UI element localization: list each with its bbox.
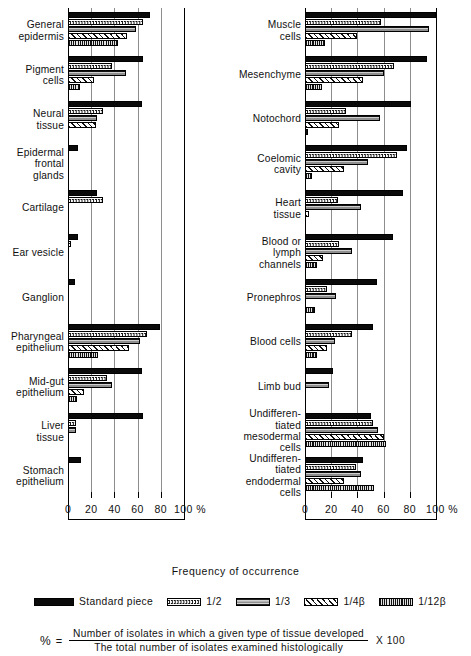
x-axis-title: Frequency of occurrence xyxy=(0,565,471,577)
bar-gray xyxy=(68,115,97,121)
bar-gray xyxy=(305,115,380,121)
chart-row: Mid-gut epithelium xyxy=(68,364,185,409)
category-label: Pronephros xyxy=(221,292,301,303)
bar-solid xyxy=(305,101,411,107)
chart-row: Pharyngeal epithelium xyxy=(68,320,185,365)
x-axis-tick-label: 40 xyxy=(108,503,120,515)
bar-gray xyxy=(305,159,368,165)
category-label: Epidermal frontal glands xyxy=(0,147,64,181)
chart-row: Pigment cells xyxy=(68,53,185,98)
chart-row: Blood cells xyxy=(305,320,437,365)
bar-dot xyxy=(305,63,394,69)
bar-dot xyxy=(305,286,327,292)
x-axis-tick-label: 20 xyxy=(325,503,337,515)
bar-solid xyxy=(305,56,427,62)
chart-row: Coelomic cavity xyxy=(305,142,437,187)
chart-row: Neural tissue xyxy=(68,97,185,142)
bar-dot xyxy=(68,197,103,203)
bar-dot xyxy=(305,197,338,203)
category-label: Neural tissue xyxy=(0,108,64,131)
chart-row: General epidermis xyxy=(68,8,185,53)
bar-solid xyxy=(305,413,371,419)
bar-solid xyxy=(68,413,143,419)
chart-row: Pronephros xyxy=(305,275,437,320)
bar-gray xyxy=(305,248,352,254)
legend-label: 1/12β xyxy=(418,596,446,607)
bar-dot xyxy=(305,108,346,114)
bar-gray xyxy=(305,70,384,76)
bar-hatch xyxy=(305,478,344,484)
category-label: Mesenchyme xyxy=(221,69,301,80)
legend: Standard piece1/21/31/4β1/12β xyxy=(34,596,446,607)
bar-dot xyxy=(68,420,76,426)
bar-hatch xyxy=(68,33,127,39)
chart-row: Mesenchyme xyxy=(305,53,437,98)
legend-item-half: 1/2 xyxy=(167,596,221,607)
legend-swatch-gray xyxy=(236,598,270,606)
chart-row: Heart tissue xyxy=(305,186,437,231)
bar-dot xyxy=(68,331,147,337)
legend-swatch-vert xyxy=(379,598,413,606)
legend-swatch-dot xyxy=(167,598,201,606)
bar-gray xyxy=(68,70,126,76)
x-axis-tick-label: 100 % xyxy=(174,503,206,515)
x-axis-tick-label: 0 xyxy=(302,503,308,515)
bar-vert xyxy=(305,40,325,46)
bar-solid xyxy=(68,145,78,151)
category-label: Coelomic cavity xyxy=(221,152,301,175)
x-axis-tick-label: 60 xyxy=(377,503,389,515)
bar-hatch xyxy=(305,211,309,217)
bar-solid xyxy=(68,190,97,196)
bar-hatch xyxy=(305,345,327,351)
legend-item-twelfth_beta: 1/12β xyxy=(379,596,446,607)
category-label: Undifferen- tiated mesodermal cells xyxy=(221,408,301,454)
bar-solid xyxy=(305,457,363,463)
category-label: Limb bud xyxy=(221,381,301,392)
figure-root: 020406080100 %General epidermisPigment c… xyxy=(0,0,471,656)
bar-gray xyxy=(68,338,140,344)
formula-multiplier: X 100 xyxy=(376,635,405,646)
chart-row: Undifferen- tiated endodermal cells xyxy=(305,453,437,498)
bar-dot xyxy=(68,241,71,247)
chart-row: Undifferen- tiated mesodermal cells xyxy=(305,409,437,454)
x-axis-line-left xyxy=(68,519,185,520)
chart-row: Muscle cells xyxy=(305,8,437,53)
bar-gray xyxy=(68,427,76,433)
formula-numerator: Number of isolates in which a given type… xyxy=(69,628,368,640)
bar-vert xyxy=(305,485,374,491)
x-axis-tick-labels: 020406080100 % xyxy=(68,503,185,517)
category-label: Muscle cells xyxy=(221,19,301,42)
bar-solid xyxy=(68,279,75,285)
legend-item-third: 1/3 xyxy=(236,596,290,607)
bar-gray xyxy=(68,26,136,32)
chart-row: Blood or lymph channels xyxy=(305,231,437,276)
chart-row: Limb bud xyxy=(305,364,437,409)
category-label: Cartilage xyxy=(0,203,64,214)
bar-gray xyxy=(305,382,329,388)
x-axis-line-right xyxy=(305,519,437,520)
bar-vert xyxy=(68,352,98,358)
category-label: Blood cells xyxy=(221,336,301,347)
x-axis-tick-label: 100 % xyxy=(426,503,458,515)
category-label: Ganglion xyxy=(0,292,64,303)
bar-vert xyxy=(68,84,80,90)
category-label: Pigment cells xyxy=(0,63,64,86)
chart-panel-right: 020406080100 %Muscle cellsMesenchymeNoto… xyxy=(237,8,471,520)
legend-label: Standard piece xyxy=(79,596,153,607)
bar-dot xyxy=(68,19,143,25)
x-axis-tick-label: 0 xyxy=(65,503,71,515)
bar-solid xyxy=(68,368,142,374)
bar-vert xyxy=(68,396,77,402)
equals-symbol: = xyxy=(56,635,62,647)
header-strip xyxy=(0,0,471,7)
bar-solid xyxy=(68,324,160,330)
legend-label: 1/4β xyxy=(343,596,365,607)
bar-hatch xyxy=(305,77,363,83)
bar-hatch xyxy=(305,33,357,39)
category-label: Liver tissue xyxy=(0,420,64,443)
bar-hatch xyxy=(305,166,344,172)
bar-solid xyxy=(68,56,143,62)
category-label: Mid-gut epithelium xyxy=(0,375,64,398)
percent-definition-formula: % = Number of isolates in which a given … xyxy=(40,628,460,653)
bar-dot xyxy=(305,152,397,158)
